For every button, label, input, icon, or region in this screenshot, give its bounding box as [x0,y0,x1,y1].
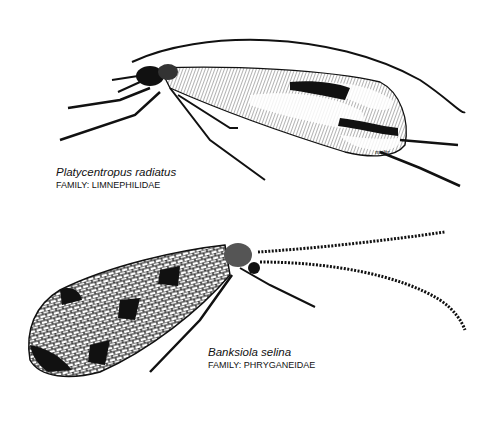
species-name: Banksiola selina [208,347,315,359]
family-name: FAMILY: LIMNEPHILIDAE [56,181,176,190]
caption-platycentropus: Platycentropus radiatus FAMILY: LIMNEPHI… [56,167,176,190]
illustration-canvas: Platycentropus radiatus FAMILY: LIMNEPHI… [0,0,491,421]
family-name: FAMILY: PHRYGANEIDAE [208,361,315,370]
artist-signature: mohr [375,148,390,156]
species-name: Platycentropus radiatus [56,167,176,179]
platycentropus-drawing [60,40,465,186]
caption-banksiola: Banksiola selina FAMILY: PHRYGANEIDAE [208,347,315,370]
